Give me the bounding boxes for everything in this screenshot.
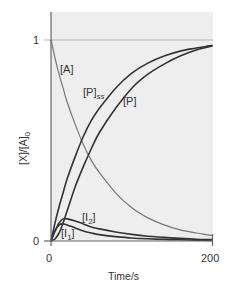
- x-axis-label: Time/s: [108, 270, 139, 282]
- kinetics-chart: 1 0 0 200 Time/s [X]/[A]0 [A] [P]ss [P] …: [0, 0, 231, 291]
- y-axis-label: [X]/[A]0: [17, 131, 32, 165]
- label-I2-close: ]: [93, 211, 96, 223]
- label-P: [P]: [123, 95, 136, 107]
- label-A: [A]: [60, 63, 73, 75]
- y-axis-label-main: [X]/[A]: [17, 136, 29, 165]
- x-tick-label-200: 200: [201, 252, 219, 264]
- y-tick-label-0: 0: [33, 235, 39, 247]
- x-tick-label-0: 0: [46, 252, 52, 264]
- y-axis-label-sub: 0: [23, 131, 32, 136]
- y-tick-label-1: 1: [33, 34, 39, 46]
- plot-background: [51, 12, 213, 241]
- label-Pss-sub: ss: [96, 92, 104, 101]
- label-Pss-main: [P]: [83, 86, 96, 98]
- label-I1-close: ]: [72, 227, 75, 239]
